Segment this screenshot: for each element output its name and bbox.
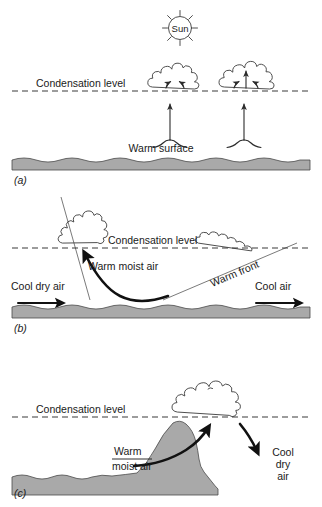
panel-c: Condensation level Warm moist air Cool d… bbox=[12, 381, 310, 499]
cool-label: Cool bbox=[272, 446, 294, 458]
updraft-arrow-icon bbox=[153, 104, 187, 148]
panel-label-c: (c) bbox=[14, 487, 26, 499]
warm-front-label: Warm front bbox=[208, 258, 260, 289]
ground-band-a bbox=[12, 158, 310, 170]
condensation-level-label-a: Condensation level bbox=[36, 77, 125, 89]
dry-label: dry bbox=[276, 458, 291, 470]
moist-air-label: moist air bbox=[112, 460, 152, 472]
cumulus-cloud-icon bbox=[172, 381, 240, 417]
warm-surface-label: Warm surface bbox=[129, 142, 194, 154]
cumulus-cloud-icon bbox=[58, 211, 108, 244]
panel-label-a: (a) bbox=[14, 174, 27, 186]
sun-label: Sun bbox=[172, 23, 189, 34]
cloud-formation-figure: Sun Condensation level bbox=[0, 0, 322, 507]
panel-label-b: (b) bbox=[14, 322, 27, 334]
warm-label: Warm bbox=[114, 445, 142, 457]
panel-a: Sun Condensation level bbox=[12, 11, 310, 187]
cumulus-cloud-icon bbox=[148, 63, 199, 89]
air-label: air bbox=[277, 470, 289, 482]
cool-air-label: Cool air bbox=[255, 280, 292, 292]
ground-band-b bbox=[12, 305, 310, 318]
downslope-arrow-icon bbox=[240, 424, 257, 451]
condensation-level-label-c: Condensation level bbox=[36, 403, 125, 415]
panel-b: Condensation level Warm moist air Warm f… bbox=[11, 197, 310, 334]
warm-moist-air-label: Warm moist air bbox=[88, 260, 159, 272]
cool-dry-air-label: Cool dry air bbox=[11, 280, 65, 292]
updraft-arrow-icon bbox=[227, 104, 261, 148]
mountain-icon bbox=[12, 421, 218, 495]
cumulus-cloud-icon bbox=[219, 61, 274, 89]
condensation-level-label-b: Condensation level bbox=[108, 234, 197, 246]
sun-icon: Sun bbox=[163, 11, 198, 46]
